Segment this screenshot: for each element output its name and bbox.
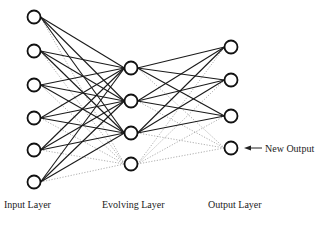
new-connection: [138, 148, 225, 164]
output-node-3: [225, 110, 238, 123]
input-node-5: [28, 144, 41, 157]
input-layer-label: Input Layer: [4, 199, 51, 210]
output-node-2: [225, 74, 238, 87]
new-connection: [138, 116, 225, 164]
output-layer-label: Output Layer: [208, 199, 262, 210]
evolving-node-1: [125, 62, 138, 75]
evolving-node-2: [125, 95, 138, 108]
evolving-node-4: [125, 158, 138, 171]
new-output-arrow-icon: [244, 146, 262, 151]
connection: [138, 47, 225, 101]
neural-network-diagram: [0, 0, 325, 225]
nodes: [28, 11, 238, 189]
evolving-node-3: [125, 127, 138, 140]
input-node-3: [28, 79, 41, 92]
new-output-label: New Output: [265, 143, 314, 154]
connection: [41, 17, 125, 68]
connection: [138, 47, 225, 133]
input-node-6: [28, 176, 41, 189]
new-connection: [138, 133, 225, 148]
input-node-1: [28, 11, 41, 24]
connection: [41, 68, 125, 150]
output-node-4: [225, 142, 238, 155]
connection: [41, 68, 125, 85]
connection: [41, 51, 125, 68]
input-node-2: [28, 45, 41, 58]
input-node-4: [28, 112, 41, 125]
evolving-layer-label: Evolving Layer: [102, 199, 164, 210]
output-node-1: [225, 41, 238, 54]
new-connection: [41, 164, 125, 182]
